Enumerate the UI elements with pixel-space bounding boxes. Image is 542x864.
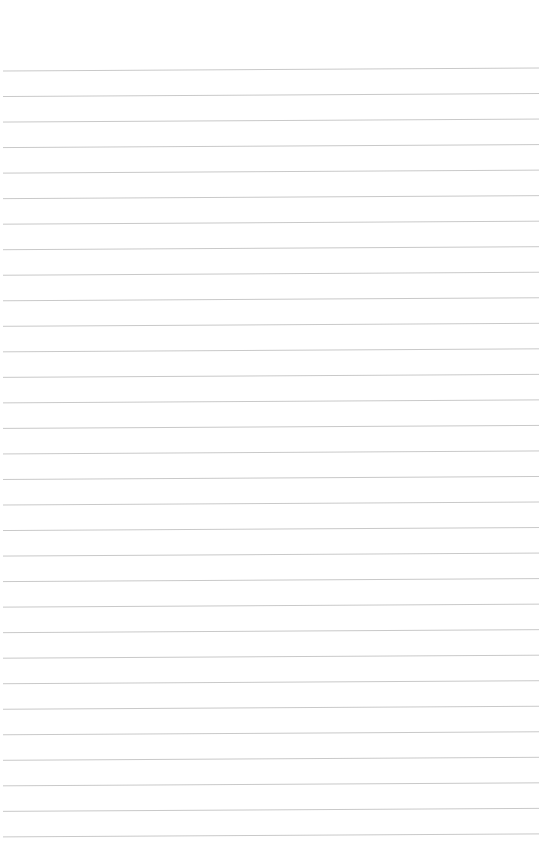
ruled-line bbox=[3, 272, 539, 275]
ruled-line bbox=[3, 400, 539, 403]
ruled-line bbox=[3, 757, 539, 760]
ruled-line bbox=[3, 476, 539, 479]
ruled-line bbox=[3, 604, 539, 607]
ruled-line bbox=[3, 68, 539, 71]
ruled-line bbox=[3, 221, 539, 224]
ruled-line bbox=[3, 94, 539, 97]
ruled-line bbox=[3, 681, 539, 684]
ruled-line bbox=[3, 655, 539, 658]
ruled-line bbox=[3, 425, 539, 428]
ruled-line bbox=[3, 528, 539, 531]
ruled-line bbox=[3, 119, 539, 122]
ruled-line bbox=[3, 579, 539, 582]
ruled-line bbox=[3, 374, 539, 377]
ruled-line bbox=[3, 783, 539, 786]
ruled-line bbox=[3, 630, 539, 633]
ruled-line bbox=[3, 732, 539, 735]
ruled-line bbox=[3, 247, 539, 250]
ruled-line bbox=[3, 349, 539, 352]
ruled-line bbox=[3, 706, 539, 709]
ruled-line bbox=[3, 196, 539, 199]
ruled-line bbox=[3, 323, 539, 326]
ruled-line bbox=[3, 834, 539, 837]
ruled-line bbox=[3, 145, 539, 148]
ruled-lines bbox=[0, 0, 542, 864]
ruled-line bbox=[3, 298, 539, 301]
ruled-line bbox=[3, 808, 539, 811]
lined-paper-sheet bbox=[0, 0, 542, 864]
ruled-line bbox=[3, 451, 539, 454]
ruled-line bbox=[3, 170, 539, 173]
ruled-line bbox=[3, 553, 539, 556]
ruled-line bbox=[3, 502, 539, 505]
